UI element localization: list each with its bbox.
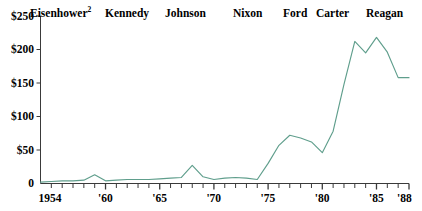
chart-container: $250$200$150$100$500 1954'60'65'70'75'80… xyxy=(0,0,422,211)
era-label-text: Carter xyxy=(316,7,349,19)
data-series-line xyxy=(41,37,410,182)
y-axis-tick-label: $250 xyxy=(0,10,34,22)
era-label-text: Johnson xyxy=(165,7,206,19)
line-chart-plot xyxy=(0,0,422,211)
x-axis-tick-marks xyxy=(51,184,409,190)
era-label-text: Kennedy xyxy=(105,7,149,19)
x-axis-tick-label: '65 xyxy=(152,192,167,204)
era-label-text: Nixon xyxy=(233,7,262,19)
x-axis-tick-label: '80 xyxy=(315,192,330,204)
x-axis-tick-label: 1954 xyxy=(39,192,62,204)
era-label-eisenhower: Eisenhower2 xyxy=(30,7,91,20)
era-label-nixon: Nixon xyxy=(233,7,262,20)
x-axis-tick-label: '85 xyxy=(369,192,384,204)
era-label-footnote-marker: 2 xyxy=(88,5,92,14)
y-axis-tick-label: $200 xyxy=(0,43,34,55)
era-label-kennedy: Kennedy xyxy=(105,7,149,20)
y-axis-tick-label: 0 xyxy=(0,177,34,189)
x-axis-tick-label: '88 xyxy=(397,192,412,204)
x-axis-tick-label: '75 xyxy=(261,192,276,204)
x-axis-tick-label: '70 xyxy=(206,192,221,204)
era-label-text: Ford xyxy=(283,7,307,19)
y-axis-tick-label: $50 xyxy=(0,144,34,156)
era-label-text: Reagan xyxy=(366,7,403,19)
era-label-ford: Ford xyxy=(283,7,307,20)
era-label-text: Eisenhower xyxy=(30,7,88,19)
x-axis-tick-label: '60 xyxy=(98,192,113,204)
era-label-reagan: Reagan xyxy=(366,7,403,20)
era-label-carter: Carter xyxy=(316,7,349,20)
chart-axes xyxy=(41,16,410,184)
y-axis-tick-label: $150 xyxy=(0,77,34,89)
y-axis-tick-label: $100 xyxy=(0,110,34,122)
y-axis-tick-marks xyxy=(37,16,41,150)
era-label-johnson: Johnson xyxy=(165,7,206,20)
